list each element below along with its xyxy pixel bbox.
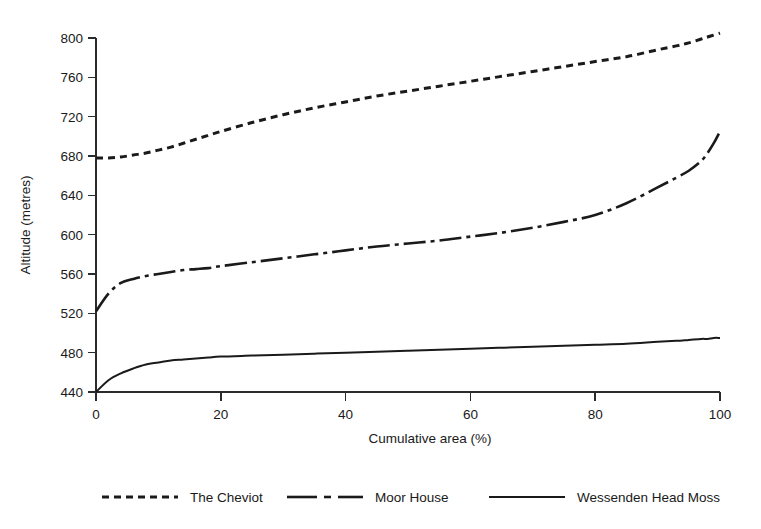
legend-label-the-cheviot: The Cheviot (190, 490, 263, 505)
y-tick-label: 760 (60, 70, 83, 85)
legend-label-moor-house: Moor House (375, 490, 449, 505)
y-tick-label: 560 (60, 267, 83, 282)
series-line-wessenden-head-moss (96, 338, 720, 392)
y-tick-label: 440 (60, 385, 83, 400)
y-tick-label: 600 (60, 228, 83, 243)
chart-legend: The CheviotMoor HouseWessenden Head Moss (102, 490, 720, 505)
y-axis-title: Altitude (metres) (18, 175, 33, 274)
x-axis-ticks: 020406080100 (92, 392, 731, 422)
x-axis-title: Cumulative area (%) (368, 431, 491, 446)
x-tick-label: 40 (338, 407, 353, 422)
x-tick-label: 0 (92, 407, 100, 422)
y-tick-label: 480 (60, 346, 83, 361)
y-axis-ticks: 440480520560600640680720760800 (60, 31, 96, 400)
x-tick-label: 80 (588, 407, 603, 422)
cumulative-area-altitude-chart: 440480520560600640680720760800 020406080… (0, 0, 761, 529)
series-line-the-cheviot (96, 33, 720, 158)
y-tick-label: 800 (60, 31, 83, 46)
y-tick-label: 520 (60, 306, 83, 321)
plot-axes: 440480520560600640680720760800 020406080… (60, 31, 731, 422)
y-tick-label: 680 (60, 149, 83, 164)
y-tick-label: 640 (60, 188, 83, 203)
data-series-group (96, 33, 720, 392)
chart-figure: 440480520560600640680720760800 020406080… (0, 0, 761, 529)
series-line-moor-house (96, 131, 720, 311)
legend-label-wessenden-head-moss: Wessenden Head Moss (577, 490, 720, 505)
y-tick-label: 720 (60, 110, 83, 125)
x-tick-label: 100 (709, 407, 732, 422)
x-tick-label: 20 (213, 407, 228, 422)
x-tick-label: 60 (463, 407, 478, 422)
